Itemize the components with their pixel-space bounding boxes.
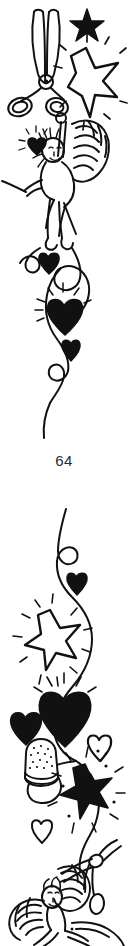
scissors-icon — [84, 840, 121, 915]
book-page-margin-illustration: 64 — [0, 0, 128, 946]
large-heart-with-rays-icon — [34, 673, 96, 747]
tiny-heart-icon — [32, 820, 52, 843]
cherub-figure — [9, 859, 124, 946]
tiny-heart-icon — [67, 573, 87, 595]
page-number: 64 — [0, 452, 128, 469]
tiny-heart-icon — [62, 340, 80, 361]
top-illustration-panel — [0, 0, 128, 440]
outline-heart-icon — [88, 736, 111, 762]
solid-star-burst-icon — [48, 747, 125, 833]
bottom-illustration-panel — [0, 505, 128, 946]
cherub-figure — [2, 121, 109, 250]
thimble-icon — [25, 739, 58, 786]
large-heart-with-rays-icon — [35, 283, 91, 335]
